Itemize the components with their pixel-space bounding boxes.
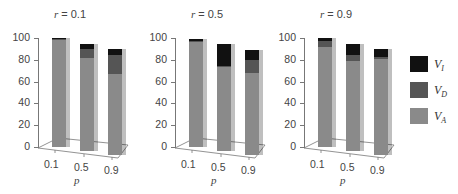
legend-label: VI [434,57,444,73]
bar-side-shade [122,49,126,155]
x-tick-label: 0.5 [211,161,226,173]
bar-side-shade [94,44,98,151]
x-tick-label: 0.1 [44,158,59,170]
bar-segment-va [318,47,332,147]
bar-p-0.5 [217,44,231,151]
bar-p-0.9 [245,50,259,155]
bar-p-0.1 [318,38,332,147]
bar-segment-vi [346,44,360,55]
legend-swatch [410,108,428,124]
bar-segment-va [245,73,259,155]
bar-segment-va [80,58,94,151]
bar-p-0.5 [80,44,94,151]
x-tick-label: 0.9 [241,164,256,176]
bar-segment-vi [52,38,66,39]
bar-segment-va [346,61,360,151]
bar-segment-va [108,74,122,155]
bar-segment-va [217,67,231,151]
x-axis-title: p [74,174,80,186]
bar-side-shade [203,39,207,147]
bar-segment-vi [217,44,231,66]
x-tick-label: 0.1 [181,158,196,170]
chart-panel-3: r = 0.90204060801000.10.50.9p [266,0,406,194]
x-tick-label: 0.9 [370,164,385,176]
bar-segment-vi [80,44,94,48]
bar-segment-vi [108,49,122,54]
bar-segment-vi [189,39,203,41]
chart-panel-1: r = 0.10204060801000.10.50.9p [0,0,140,194]
bar-p-0.1 [189,39,203,147]
x-tick-label: 0.5 [340,161,355,173]
legend-label: VA [434,109,446,125]
bar-segment-vi [245,50,259,60]
bar-p-0.5 [346,44,360,151]
bar-side-shade [231,44,235,151]
bar-segment-vi [374,49,388,57]
x-axis-title: p [340,174,346,186]
x-tick-label: 0.5 [74,161,89,173]
bar-segment-vd [108,55,122,75]
bar-segment-vd [346,55,360,60]
bar-segment-vd [374,57,388,59]
bar-p-0.1 [52,38,66,147]
bar-side-shade [388,49,392,155]
legend-label: VD [434,83,447,99]
bar-p-0.9 [374,49,388,155]
bar-segment-vd [217,66,231,67]
bar-segment-vd [52,39,66,40]
x-axis-title: p [211,174,217,186]
bar-side-shade [66,38,70,147]
bar-segment-vd [318,41,332,46]
bar-p-0.9 [108,49,122,155]
legend-swatch [410,56,428,72]
bar-side-shade [332,38,336,147]
bar-segment-vd [245,60,259,73]
bar-segment-vi [318,38,332,41]
x-tick-label: 0.1 [310,158,325,170]
bar-segment-vd [80,49,94,59]
bar-segment-va [374,59,388,155]
bar-segment-vd [189,41,203,42]
bar-side-shade [259,50,263,155]
chart-panel-2: r = 0.50204060801000.10.50.9p [137,0,277,194]
bar-segment-va [52,40,66,147]
bar-side-shade [360,44,364,151]
bar-segment-va [189,42,203,147]
legend-swatch [410,82,428,98]
x-tick-label: 0.9 [104,164,119,176]
